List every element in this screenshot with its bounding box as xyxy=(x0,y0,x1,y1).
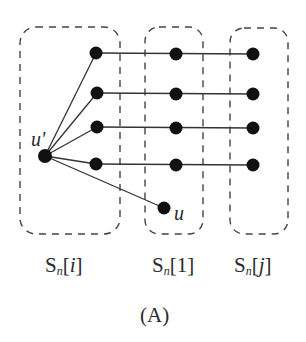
node-left-2 xyxy=(91,87,104,100)
edges-from-u-prime xyxy=(45,53,164,208)
node-left-1 xyxy=(90,47,103,60)
node-mid-3 xyxy=(170,122,183,135)
group-label-sn-i: Sn[i] xyxy=(45,253,83,278)
diagram-canvas: u' u Sn[i] Sn[1] Sn[j] (A) xyxy=(0,0,306,342)
label-u: u xyxy=(174,202,184,224)
label-u-prime: u' xyxy=(31,128,46,150)
group-label-sn-1: Sn[1] xyxy=(152,253,194,278)
node-left-4 xyxy=(90,158,103,171)
node-mid-4 xyxy=(170,159,183,172)
group-label-sn-j: Sn[j] xyxy=(234,253,272,278)
node-left-3 xyxy=(91,121,104,134)
nodes xyxy=(38,47,260,215)
node-mid-1 xyxy=(170,48,183,61)
node-u-prime xyxy=(38,149,52,163)
node-right-2 xyxy=(247,88,260,101)
node-right-3 xyxy=(247,122,260,135)
node-mid-2 xyxy=(170,88,183,101)
node-u xyxy=(158,202,171,215)
node-right-1 xyxy=(247,48,260,61)
node-right-4 xyxy=(247,159,260,172)
figure-caption: (A) xyxy=(140,303,169,327)
group-box-sn-j xyxy=(230,28,288,234)
